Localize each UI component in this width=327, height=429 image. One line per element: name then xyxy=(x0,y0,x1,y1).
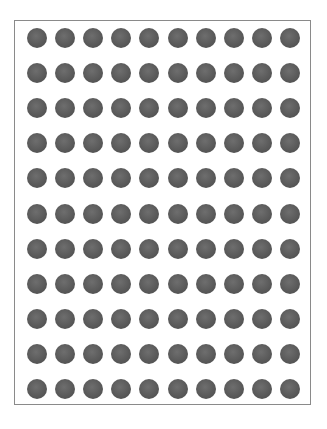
dot xyxy=(55,239,75,259)
dot xyxy=(196,98,216,118)
dot xyxy=(168,309,188,329)
dot xyxy=(196,379,216,399)
dot xyxy=(27,204,47,224)
dot xyxy=(280,239,300,259)
dot xyxy=(196,239,216,259)
dot xyxy=(111,204,131,224)
dot xyxy=(55,379,75,399)
dot xyxy=(27,379,47,399)
dot xyxy=(280,274,300,294)
dot xyxy=(252,344,272,364)
dot xyxy=(224,28,244,48)
dot xyxy=(27,274,47,294)
dot xyxy=(252,239,272,259)
dot xyxy=(111,239,131,259)
dot xyxy=(224,98,244,118)
dot xyxy=(252,28,272,48)
dot xyxy=(280,204,300,224)
dot xyxy=(196,309,216,329)
dot xyxy=(55,309,75,329)
dot xyxy=(111,274,131,294)
dot xyxy=(252,133,272,153)
dot xyxy=(27,344,47,364)
dot xyxy=(252,98,272,118)
dot xyxy=(168,168,188,188)
dot xyxy=(280,379,300,399)
dot xyxy=(168,344,188,364)
dot xyxy=(224,168,244,188)
dot xyxy=(196,133,216,153)
dot xyxy=(280,344,300,364)
dot xyxy=(280,63,300,83)
dot xyxy=(252,379,272,399)
dot xyxy=(168,204,188,224)
dot xyxy=(27,63,47,83)
dot xyxy=(196,28,216,48)
dot xyxy=(55,204,75,224)
dot xyxy=(168,239,188,259)
dot xyxy=(168,98,188,118)
dot xyxy=(83,204,103,224)
dot xyxy=(224,204,244,224)
dot xyxy=(27,309,47,329)
dot xyxy=(27,239,47,259)
dot xyxy=(224,274,244,294)
dot xyxy=(196,168,216,188)
dot xyxy=(280,28,300,48)
dot xyxy=(196,274,216,294)
dot xyxy=(224,379,244,399)
dot xyxy=(224,133,244,153)
dot xyxy=(83,309,103,329)
dot xyxy=(55,344,75,364)
dot xyxy=(55,274,75,294)
dot xyxy=(280,98,300,118)
dot xyxy=(83,344,103,364)
dot xyxy=(196,63,216,83)
dot xyxy=(168,63,188,83)
dot xyxy=(252,204,272,224)
dot xyxy=(139,204,159,224)
dot xyxy=(139,274,159,294)
dot xyxy=(224,309,244,329)
dot xyxy=(252,309,272,329)
dot xyxy=(27,28,47,48)
dot xyxy=(55,28,75,48)
dot xyxy=(224,239,244,259)
dot xyxy=(280,309,300,329)
dot xyxy=(252,274,272,294)
dot xyxy=(139,239,159,259)
dot xyxy=(83,274,103,294)
dot xyxy=(196,344,216,364)
dot xyxy=(111,309,131,329)
dot xyxy=(168,274,188,294)
dot xyxy=(168,28,188,48)
dot xyxy=(252,63,272,83)
dot xyxy=(168,133,188,153)
dot xyxy=(224,63,244,83)
dot xyxy=(224,344,244,364)
dot xyxy=(196,204,216,224)
dot xyxy=(83,239,103,259)
dot xyxy=(168,379,188,399)
